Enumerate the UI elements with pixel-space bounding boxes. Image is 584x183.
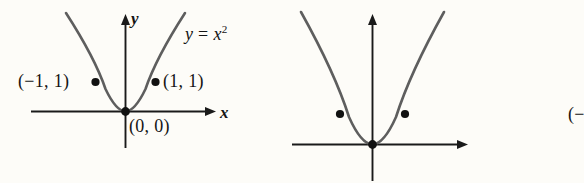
x-axis-arrowhead-icon [457, 140, 468, 149]
y-axis-arrowhead-icon [121, 14, 130, 25]
point-label-1-1: (1, 1) [163, 72, 204, 90]
graph-panel-left: y x y = x2 (−1, 1) (1, 1) (0, 0) [0, 0, 292, 183]
point-marker-1-1 [151, 78, 159, 86]
x-axis-arrowhead-icon [205, 107, 216, 116]
point-label-neg1-1: (−1, 1) [568, 105, 584, 123]
equation-equals-1: = [198, 24, 208, 44]
parabola-plot-left [0, 0, 292, 183]
equation-exponent-1: 2 [222, 23, 228, 35]
y-axis-label: y [131, 10, 139, 27]
point-marker-neg1-1 [336, 110, 344, 118]
point-marker-1-1 [401, 110, 409, 118]
y-axis-arrowhead-icon [368, 14, 377, 25]
equation-label-left: y = x2 [185, 25, 228, 43]
figure-root: y x y = x2 (−1, 1) (1, 1) (0, 0) [0, 0, 584, 183]
point-label-neg1-1: (−1, 1) [18, 72, 69, 90]
graph-panel-right: y x y = x2 = (−x)2 (−1, 1) (1, 1) (0, 0) [292, 0, 584, 183]
point-marker-origin [368, 140, 377, 149]
y-axis-right [368, 14, 377, 181]
point-label-origin: (0, 0) [129, 117, 170, 135]
point-marker-origin [121, 107, 130, 116]
equation-base-1: x [213, 24, 221, 44]
point-marker-neg1-1 [91, 78, 99, 86]
x-axis-label: x [220, 104, 229, 121]
parabola-plot-right [292, 0, 584, 183]
